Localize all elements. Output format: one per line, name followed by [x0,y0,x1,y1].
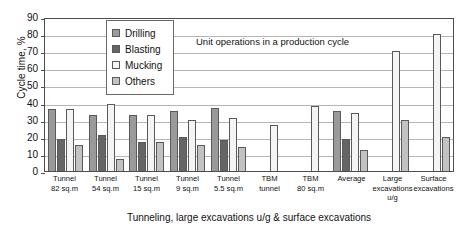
bar-group [412,19,453,171]
bar-others [442,137,450,171]
legend-label: Mucking [125,60,162,71]
x-tick-label-line: Tunnel [44,174,85,184]
bar-mucking [229,118,237,171]
y-tick-label: 0 [14,168,38,176]
y-axis-tick-labels: 9080706050403020100 [12,0,38,240]
bar-blasting [342,139,350,172]
x-tick-label: Tunnel54 sq.m [85,174,126,203]
y-tick-label: 80 [14,31,38,39]
bar-mucking [351,113,359,171]
bar-blasting [57,139,65,172]
y-tick-label: 10 [14,151,38,159]
x-tick-label-line: excavations [413,184,454,194]
x-tick-label-line: 5.5 sq.m [208,184,249,194]
bar-drilling [89,115,97,171]
x-axis-title: Tunneling, large excavations u/g & surfa… [44,212,454,223]
x-tick-label: TBM80 sq.m [290,174,331,203]
bar-others [401,120,409,171]
x-tick-label-line: tunnel [249,184,290,194]
bar-mucking [311,106,319,171]
bar-blasting [138,142,146,171]
x-tick-label-line: TBM [249,174,290,184]
x-tick-label-line: u/g [372,193,413,203]
x-tick-label-line: excavations [372,184,413,194]
legend-swatch-icon [112,77,120,85]
y-tick-label: 40 [14,100,38,108]
legend-item-drilling: Drilling [112,25,168,41]
x-tick-label: Tunnel9 sq.m [167,174,208,203]
y-tick-label: 90 [14,14,38,22]
x-tick-label-line: TBM [290,174,331,184]
bar-blasting [179,137,187,171]
y-tick-label: 30 [14,117,38,125]
x-tick-label-line: Average [331,174,372,184]
legend-label: Drilling [125,28,156,39]
bar-mucking [433,34,441,171]
bar-drilling [211,108,219,171]
legend-label: Blasting [125,44,161,55]
x-tick-label: Largeexcavationsu/g [372,174,413,203]
bar-drilling [48,109,56,171]
legend-item-others: Others [112,73,168,89]
bar-others [197,145,205,171]
x-tick-label-line: Tunnel [126,174,167,184]
bar-mucking [392,51,400,171]
x-tick-label: Surfaceexcavations [413,174,454,203]
chart-annotation: Unit operations in a production cycle [196,36,349,47]
x-tick-label-line: Surface [413,174,454,184]
x-tick-label: Tunnel5.5 sq.m [208,174,249,203]
y-tick-label: 50 [14,82,38,90]
bar-blasting [220,140,228,171]
bar-mucking [107,104,115,171]
bar-chart: Cycle time, % 9080706050403020100 Drilli… [0,0,468,240]
x-axis-tick-labels: Tunnel82 sq.mTunnel54 sq.mTunnel15 sq.mT… [44,174,454,203]
x-tick-label-line: Tunnel [167,174,208,184]
bar-drilling [170,111,178,171]
bar-mucking [188,120,196,171]
bar-blasting [98,135,106,171]
bar-mucking [66,109,74,171]
bar-mucking [270,125,278,171]
y-tick-label: 70 [14,48,38,56]
y-tick-label: 20 [14,134,38,142]
legend-swatch-icon [112,45,120,53]
bar-group [371,19,412,171]
bar-others [156,142,164,171]
bar-drilling [129,115,137,171]
bar-drilling [333,111,341,171]
legend-item-blasting: Blasting [112,41,168,57]
x-tick-label-line: Tunnel [85,174,126,184]
x-tick-label-line: 80 sq.m [290,184,331,194]
bar-others [116,159,124,171]
x-tick-label-line: 82 sq.m [44,184,85,194]
x-tick-label: Tunnel82 sq.m [44,174,85,203]
x-tick-label: TBMtunnel [249,174,290,203]
legend-swatch-icon [112,61,120,69]
bar-group [45,19,86,171]
x-tick-label-line: 9 sq.m [167,184,208,194]
bar-others [75,145,83,171]
bar-mucking [147,115,155,171]
bar-others [238,147,246,171]
x-tick-label: Average [331,174,372,203]
legend-label: Others [125,76,155,87]
legend-swatch-icon [112,29,120,37]
x-tick-label: Tunnel15 sq.m [126,174,167,203]
x-tick-label-line: 15 sq.m [126,184,167,194]
bar-others [360,150,368,171]
y-tick-label: 60 [14,65,38,73]
legend-item-mucking: Mucking [112,57,168,73]
legend: DrillingBlastingMuckingOthers [106,20,174,95]
x-tick-label-line: 54 sq.m [85,184,126,194]
x-tick-label-line: Large [372,174,413,184]
x-tick-label-line: Tunnel [208,174,249,184]
